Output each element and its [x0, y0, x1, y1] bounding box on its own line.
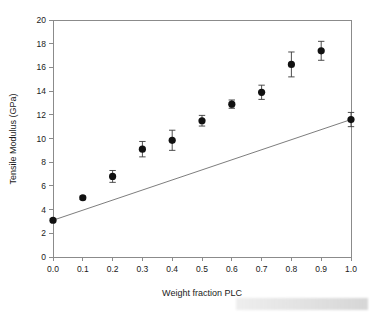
x-tick-label: 0.4 — [166, 264, 178, 274]
x-tick-label: 0.7 — [256, 264, 268, 274]
x-tick-label: 0.5 — [196, 264, 208, 274]
y-tick-label: 0 — [41, 252, 46, 262]
data-point — [258, 89, 265, 96]
y-tick-label: 10 — [37, 134, 47, 144]
x-tick-label: 0.1 — [77, 264, 89, 274]
x-tick-group: 0.00.10.20.30.40.50.60.70.80.91.0 — [47, 257, 357, 274]
page-scan-artifact — [236, 298, 368, 310]
x-tick-label: 0.9 — [315, 264, 327, 274]
y-tick-group: 02468101214161820 — [37, 15, 53, 262]
chart-svg: 02468101214161820 0.00.10.20.30.40.50.60… — [0, 0, 374, 314]
y-tick-label: 14 — [37, 86, 47, 96]
x-tick-label: 0.3 — [136, 264, 148, 274]
y-tick-label: 18 — [37, 39, 47, 49]
y-tick-label: 6 — [41, 181, 46, 191]
data-point — [347, 116, 354, 123]
rule-of-mixtures-line — [53, 120, 351, 221]
x-tick-label: 1.0 — [345, 264, 357, 274]
y-tick-label: 2 — [41, 228, 46, 238]
data-point — [198, 117, 205, 124]
x-axis-title: Weight fraction PLC — [162, 288, 242, 298]
data-point — [139, 146, 146, 153]
y-tick-label: 16 — [37, 62, 47, 72]
y-axis-title: Tensile Modulus (GPa) — [8, 93, 18, 184]
y-tick-label: 20 — [37, 15, 47, 25]
trend-line-group — [53, 120, 351, 221]
data-point — [169, 137, 176, 144]
y-tick-label: 4 — [41, 205, 46, 215]
data-point-group — [49, 47, 354, 224]
data-point — [228, 101, 235, 108]
x-tick-label: 0.2 — [107, 264, 119, 274]
x-tick-label: 0.8 — [285, 264, 297, 274]
data-point — [49, 217, 56, 224]
data-point — [109, 173, 116, 180]
y-tick-label: 8 — [41, 157, 46, 167]
plot-frame — [53, 20, 351, 257]
data-point — [79, 194, 86, 201]
x-tick-label: 0.6 — [226, 264, 238, 274]
x-tick-label: 0.0 — [47, 264, 59, 274]
chart-figure: 02468101214161820 0.00.10.20.30.40.50.60… — [0, 0, 374, 314]
error-bar-group — [50, 41, 354, 222]
data-point — [288, 61, 295, 68]
y-tick-label: 12 — [37, 110, 47, 120]
data-point — [318, 47, 325, 54]
